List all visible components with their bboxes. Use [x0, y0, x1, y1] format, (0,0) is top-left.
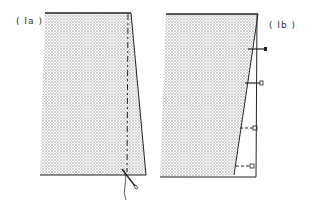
fabric-ia [40, 13, 146, 175]
straight-edge-ib [256, 14, 257, 177]
sewing-diagram: ( Ia ) ( Ib ) [0, 0, 314, 213]
diagram-canvas [0, 0, 314, 213]
panel-label-ia: ( Ia ) [16, 16, 43, 26]
panel-ib [160, 14, 267, 177]
panel-label-ib: ( Ib ) [269, 20, 296, 30]
panel-ia [40, 13, 146, 200]
